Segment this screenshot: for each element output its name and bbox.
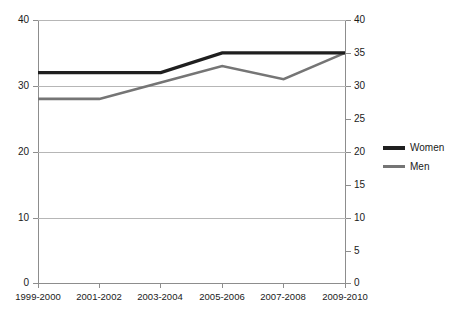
gridline-0 — [38, 283, 346, 284]
x-tick-5 — [283, 284, 284, 288]
legend-item-women[interactable]: Women — [383, 138, 455, 157]
legend-item-men[interactable]: Men — [383, 157, 455, 176]
right-axis-label-25: 25 — [354, 114, 380, 124]
line-swatch-men-icon — [383, 165, 405, 168]
x-axis-label-2007-2008: 2007-2008 — [248, 291, 318, 302]
legend-label-men: Men — [410, 161, 429, 172]
left-tick-20 — [33, 152, 38, 153]
right-axis-label-15: 15 — [354, 180, 380, 190]
right-tick-30 — [346, 86, 351, 87]
series-line-women — [38, 53, 345, 73]
left-axis-label-0: 0 — [3, 278, 29, 288]
x-axis-label-2005-2006: 2005-2006 — [187, 291, 257, 302]
legend-label-women: Women — [410, 142, 444, 153]
x-tick-6 — [345, 284, 346, 288]
series-line-men — [38, 53, 345, 99]
right-axis-label-35: 35 — [354, 48, 380, 58]
right-axis-label-20: 20 — [354, 147, 380, 157]
right-tick-40 — [346, 20, 351, 21]
left-tick-30 — [33, 86, 38, 87]
right-tick-15 — [346, 185, 351, 186]
line-swatch-women-icon — [383, 146, 405, 150]
x-axis-label-2009-2010: 2009-2010 — [310, 291, 380, 302]
right-tick-10 — [346, 218, 351, 219]
right-tick-20 — [346, 152, 351, 153]
right-tick-25 — [346, 119, 351, 120]
left-tick-10 — [33, 218, 38, 219]
right-axis-label-30: 30 — [354, 81, 380, 91]
x-tick-2 — [99, 284, 100, 288]
right-axis-label-40: 40 — [354, 15, 380, 25]
line-chart: 40 30 20 10 0 40 35 30 25 20 15 10 5 0 1… — [0, 0, 455, 315]
gridline-10 — [38, 218, 346, 219]
x-tick-3 — [160, 284, 161, 288]
right-tick-5 — [346, 251, 351, 252]
x-axis-label-2003-2004: 2003-2004 — [125, 291, 195, 302]
left-axis-label-30: 30 — [3, 81, 29, 91]
x-axis-label-2001-2002: 2001-2002 — [64, 291, 134, 302]
left-axis-label-20: 20 — [3, 147, 29, 157]
right-tick-0 — [346, 283, 351, 284]
x-axis-label-1999-2000: 1999-2000 — [3, 291, 73, 302]
gridline-20 — [38, 152, 346, 153]
left-axis-label-10: 10 — [3, 213, 29, 223]
chart-legend: Women Men — [383, 138, 455, 176]
right-axis-label-5: 5 — [354, 246, 380, 256]
x-tick-1 — [38, 284, 39, 288]
right-axis-label-0: 0 — [354, 278, 380, 288]
gridline-40 — [38, 20, 346, 21]
x-tick-4 — [222, 284, 223, 288]
gridline-30 — [38, 86, 346, 87]
right-tick-35 — [346, 53, 351, 54]
left-tick-40 — [33, 20, 38, 21]
right-axis-label-10: 10 — [354, 213, 380, 223]
left-axis-label-40: 40 — [3, 15, 29, 25]
